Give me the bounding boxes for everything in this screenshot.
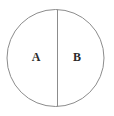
circle-diagram: A B [0, 0, 114, 116]
diagram-canvas: A B [0, 0, 114, 116]
region-label-b: B [73, 50, 81, 64]
region-label-a: A [32, 50, 41, 64]
